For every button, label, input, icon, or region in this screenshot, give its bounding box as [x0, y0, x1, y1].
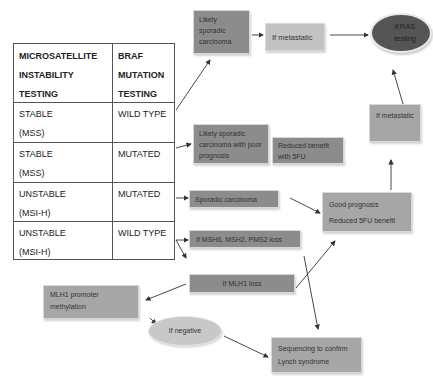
node-msh-loss: If MSH6, MSH2, PMS2 loss — [189, 230, 301, 248]
node-mlh1-loss: If MLH1 loss — [189, 274, 295, 293]
node-sporadic-carcinoma: Sporadic carcinoma — [189, 190, 279, 208]
node-good-prognosis: Good prognosis Reduced 5FU benefit — [322, 192, 412, 232]
node-kras-testing: KRAS testing — [370, 13, 432, 53]
node-if-metastatic-right: If metastatic — [369, 104, 421, 142]
kras-label: KRAS testing — [390, 21, 420, 45]
node-if-metastatic-top: If metastatic — [265, 23, 325, 51]
reduced-5fu-benefit-label: Reduced 5FU benefit — [329, 213, 405, 229]
node-likely-sporadic-poor-prognosis: Likely sporadic carcinoma with poor prog… — [193, 124, 269, 164]
node-likely-sporadic: Likely sporadic carcinoma — [193, 10, 250, 54]
node-mlh1-promoter-methylation: MLH1 promoter methylation — [43, 285, 139, 319]
node-reduced-benefit-5fu: Reduced benefit with 5FU — [272, 137, 344, 164]
node-sequencing-lynch: Sequencing to confirm Lynch syndrome — [271, 337, 362, 373]
node-if-negative: If negative — [148, 316, 222, 346]
good-prognosis-label: Good prognosis — [329, 197, 405, 213]
flow-arrows — [0, 0, 433, 378]
